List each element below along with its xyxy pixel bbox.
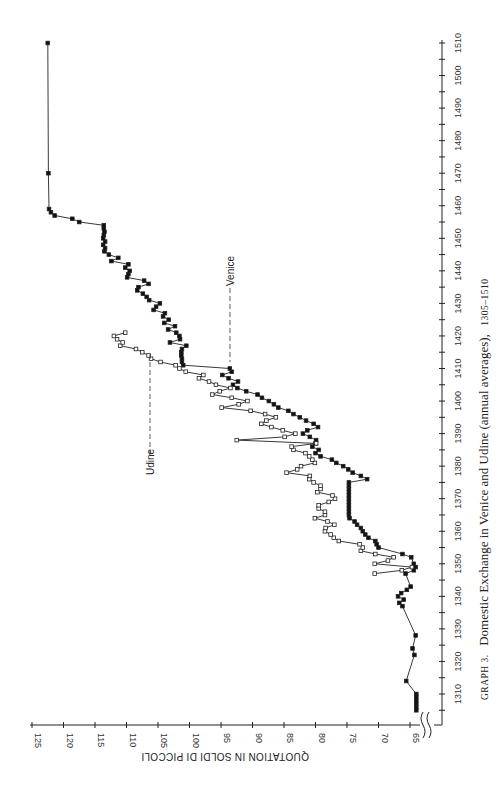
venice-point	[287, 409, 291, 413]
udine-point	[392, 555, 396, 559]
year-tick-label: 1400	[453, 391, 463, 411]
year-tick-label: 1440	[453, 261, 463, 281]
venice-point	[47, 171, 51, 175]
caption-title: Domestic Exchange in Venice and Udine (a…	[476, 334, 491, 646]
venice-point	[110, 259, 114, 263]
venice-point	[359, 474, 363, 478]
udine-point	[121, 341, 125, 345]
udine-point	[220, 406, 224, 410]
venice-label: Venice	[225, 256, 236, 286]
quotation-tick-label: 105	[159, 733, 169, 748]
exchange-chart: 12512011511010510095908580757065 1310132…	[0, 0, 500, 791]
venice-point	[351, 471, 355, 475]
venice-point	[127, 263, 131, 267]
year-tick-label: 1330	[453, 619, 463, 639]
udine-point	[337, 539, 341, 543]
udine-point	[112, 334, 116, 338]
year-tick-label: 1490	[453, 98, 463, 118]
series-layer	[46, 41, 418, 712]
year-tick-label: 1480	[453, 131, 463, 151]
udine-point	[159, 360, 163, 364]
udine-point	[230, 396, 234, 400]
caption-range: 1305–1510	[480, 279, 490, 326]
venice-point	[304, 419, 308, 423]
udine-point	[274, 416, 278, 420]
udine-point	[299, 464, 303, 468]
quotation-tick-label: 85	[285, 733, 295, 743]
venice-point	[353, 520, 357, 524]
venice-point	[173, 324, 177, 328]
year-tick-label: 1340	[453, 586, 463, 606]
venice-point	[47, 207, 51, 211]
venice-point	[334, 461, 338, 465]
venice-point	[301, 432, 305, 436]
udine-label: Udine	[145, 448, 156, 475]
venice-point	[346, 468, 350, 472]
venice-point	[256, 393, 260, 397]
venice-point	[415, 692, 419, 696]
y-axis-title: QUOTATION IN SOLDI DI PICCOLI	[141, 751, 309, 762]
year-tick-label: 1450	[453, 228, 463, 248]
udine-point	[314, 442, 318, 446]
year-tick-label: 1390	[453, 424, 463, 444]
udine-point	[214, 383, 218, 387]
venice-point	[399, 591, 403, 595]
venice-point	[411, 647, 415, 651]
venice-point	[319, 455, 323, 459]
year-ticks: 1310132013301340135013601370138013901400…	[439, 33, 463, 710]
udine-point	[210, 393, 214, 397]
venice-point	[147, 282, 151, 286]
venice-point	[316, 425, 320, 429]
venice-point	[414, 634, 418, 638]
udine-point	[184, 370, 188, 374]
venice-point	[174, 331, 178, 335]
venice-point	[166, 328, 170, 332]
caption-text: GRAPH 3. Domestic Exchange in Venice and…	[474, 279, 491, 701]
year-tick-label: 1500	[453, 66, 463, 86]
venice-point	[220, 373, 224, 377]
venice-point	[413, 653, 417, 657]
udine-point	[283, 435, 287, 439]
udine-point	[270, 425, 274, 429]
venice-point	[306, 429, 310, 433]
year-tick-label: 1470	[453, 163, 463, 183]
udine-point	[246, 399, 250, 403]
venice-point	[167, 318, 171, 322]
venice-point	[141, 292, 145, 296]
udine-point	[304, 451, 308, 455]
quotation-tick-label: 110	[128, 733, 138, 747]
udine-point	[263, 412, 267, 416]
venice-point	[298, 416, 302, 420]
udine-point	[373, 562, 377, 566]
udine-point	[295, 468, 299, 472]
venice-point	[168, 341, 172, 345]
udine-point	[319, 484, 323, 488]
venice-point	[53, 214, 57, 218]
quotation-tick-label: 95	[222, 733, 232, 743]
venice-series	[46, 41, 418, 712]
udine-point	[386, 559, 390, 563]
udine-point	[281, 429, 285, 433]
venice-point	[142, 279, 146, 283]
udine-point	[324, 526, 328, 530]
udine-point	[218, 389, 222, 393]
caption-prefix: GRAPH 3.	[480, 654, 490, 700]
venice-point	[163, 311, 167, 315]
udine-point	[313, 516, 317, 520]
quotation-tick-label: 75	[348, 733, 358, 743]
venice-point	[107, 253, 111, 257]
quotation-tick-label: 115	[96, 733, 106, 747]
venice-point	[402, 598, 406, 602]
udine-point	[229, 386, 233, 390]
udine-point	[290, 445, 294, 449]
udine-point	[329, 533, 333, 537]
udine-point	[331, 494, 335, 498]
udine-point	[317, 503, 321, 507]
venice-point	[341, 464, 345, 468]
udine-point	[373, 572, 377, 576]
udine-point	[333, 523, 337, 527]
year-tick-label: 1360	[453, 521, 463, 541]
quotation-tick-label: 90	[254, 733, 264, 743]
quotation-ticks: 12512011511010510095908580757065	[32, 722, 421, 748]
venice-point	[267, 399, 271, 403]
